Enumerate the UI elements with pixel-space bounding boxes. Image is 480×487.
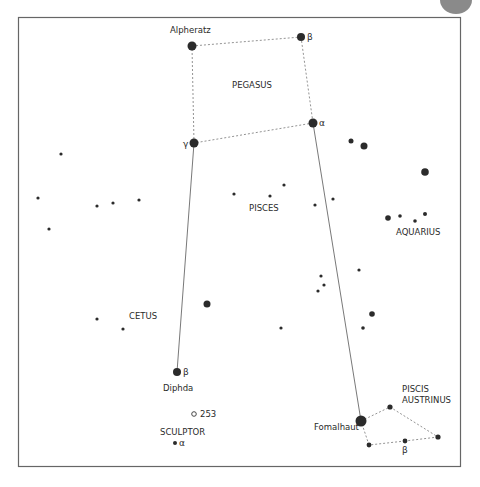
star bbox=[95, 317, 98, 320]
label-aquarius: AQUARIUS bbox=[396, 227, 440, 237]
dotted-pa-2 bbox=[390, 407, 438, 437]
piscis-austrinus-asterism bbox=[361, 407, 438, 445]
star-pa-3 bbox=[435, 434, 440, 439]
label-sculptor-alpha: α bbox=[179, 438, 185, 448]
pointer-line-alpha-fomalhaut bbox=[313, 123, 361, 421]
dotted-alpheratz-beta bbox=[192, 37, 301, 46]
pegasus-square bbox=[192, 37, 313, 143]
star bbox=[232, 192, 235, 195]
star-alpheratz bbox=[188, 42, 197, 51]
star bbox=[385, 215, 391, 221]
label-piscis-austrinus-beta: β bbox=[402, 445, 408, 455]
star-diphda bbox=[173, 368, 181, 376]
star bbox=[361, 143, 368, 150]
label-pegasus-gamma: γ bbox=[183, 139, 189, 149]
star bbox=[279, 326, 282, 329]
star bbox=[268, 194, 271, 197]
star bbox=[331, 197, 334, 200]
label-alpheratz: Alpheratz bbox=[170, 25, 211, 35]
pointer-line-gamma-diphda bbox=[177, 143, 194, 372]
label-pegasus-beta: β bbox=[307, 32, 313, 42]
dotted-pa-4 bbox=[369, 441, 405, 445]
stars bbox=[36, 33, 440, 447]
star bbox=[137, 198, 140, 201]
label-pisces: PISCES bbox=[249, 203, 279, 213]
star bbox=[316, 289, 319, 292]
star bbox=[121, 327, 124, 330]
star bbox=[319, 274, 322, 277]
star bbox=[47, 227, 50, 230]
star bbox=[357, 268, 360, 271]
label-diphda-beta: β bbox=[183, 367, 189, 377]
dotted-alpha-gamma bbox=[194, 123, 313, 143]
label-fomalhaut: Fomalhaut bbox=[314, 422, 360, 432]
label-pegasus-alpha: α bbox=[319, 118, 325, 128]
star-piscis-austrinus-beta bbox=[403, 439, 408, 444]
star bbox=[361, 326, 365, 330]
star bbox=[36, 196, 39, 199]
star-chart: Alpheratz β α γ PEGASUS PISCES AQUARIUS … bbox=[0, 0, 480, 487]
ngc253-marker bbox=[192, 412, 197, 417]
connector-lines bbox=[177, 37, 438, 445]
label-diphda: Diphda bbox=[163, 383, 193, 393]
star-pegasus-gamma bbox=[190, 139, 199, 148]
star bbox=[421, 168, 429, 176]
star bbox=[204, 301, 211, 308]
star bbox=[369, 311, 375, 317]
label-cetus: CETUS bbox=[129, 311, 157, 321]
labels: Alpheratz β α γ PEGASUS PISCES AQUARIUS … bbox=[129, 25, 451, 455]
star-pa-1 bbox=[387, 404, 392, 409]
star bbox=[95, 204, 98, 207]
star bbox=[322, 283, 325, 286]
dotted-beta-alpha bbox=[301, 37, 313, 123]
star bbox=[349, 139, 354, 144]
star-pegasus-beta bbox=[297, 33, 305, 41]
star bbox=[282, 183, 285, 186]
label-ngc253: 253 bbox=[200, 409, 216, 419]
star bbox=[413, 219, 417, 223]
star bbox=[59, 152, 62, 155]
star-pegasus-alpha bbox=[309, 119, 318, 128]
star bbox=[111, 201, 114, 204]
label-austrinus: AUSTRINUS bbox=[402, 395, 451, 405]
label-sculptor: SCULPTOR bbox=[160, 427, 205, 437]
star bbox=[423, 212, 427, 216]
dotted-gamma-alpheratz bbox=[192, 46, 194, 143]
star-sculptor-alpha bbox=[173, 441, 177, 445]
dotted-pa-3 bbox=[405, 437, 438, 441]
label-piscis: PISCIS bbox=[402, 384, 429, 394]
star bbox=[398, 214, 402, 218]
star-pa-2 bbox=[367, 443, 372, 448]
label-pegasus: PEGASUS bbox=[232, 80, 272, 90]
star bbox=[313, 203, 316, 206]
